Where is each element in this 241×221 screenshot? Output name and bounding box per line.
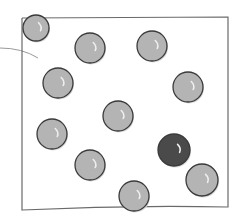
- ball: [43, 68, 74, 100]
- ball: [119, 181, 150, 213]
- ball: [75, 33, 106, 65]
- ball: [173, 72, 204, 104]
- ball: [137, 31, 168, 63]
- balls-group: [23, 15, 219, 213]
- ball: [37, 119, 68, 151]
- ball: [23, 15, 50, 43]
- dark-ball: [158, 134, 191, 168]
- ball: [186, 164, 219, 198]
- ball-box-illustration: [0, 0, 241, 221]
- ball: [75, 150, 106, 182]
- ball: [103, 101, 134, 133]
- curved-stroke: [0, 48, 38, 58]
